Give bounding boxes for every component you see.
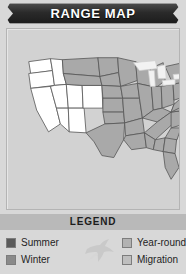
banner-title-container: RANGE MAP xyxy=(4,3,182,24)
legend-label-winter: Winter xyxy=(21,255,50,265)
state-louisiana xyxy=(124,133,147,150)
legend-column-right: Year-round Migration xyxy=(122,234,186,268)
state-iowa xyxy=(121,83,140,98)
header-banner: RANGE MAP xyxy=(0,0,186,26)
legend-column-left: Summer Winter xyxy=(6,234,59,268)
state-new-mexico xyxy=(68,108,86,133)
state-ohio xyxy=(161,84,174,108)
legend-swatch-summer xyxy=(6,238,16,248)
range-map-panel xyxy=(6,28,180,210)
state-oregon xyxy=(29,71,55,89)
lake-erie xyxy=(162,79,175,85)
legend-label-year-round: Year-round xyxy=(137,238,186,248)
legend-title: LEGEND xyxy=(70,217,116,227)
legend-label-migration: Migration xyxy=(137,255,178,265)
state-utah xyxy=(66,84,83,108)
lake-ontario xyxy=(173,74,179,80)
legend-swatch-winter xyxy=(6,255,16,265)
bird-silhouette-svg xyxy=(84,236,116,266)
state-south-carolina xyxy=(165,128,179,140)
legend-item-winter: Winter xyxy=(6,251,59,268)
legend-swatch-migration xyxy=(122,255,132,265)
state-colorado xyxy=(82,85,103,108)
state-texas xyxy=(86,123,125,158)
state-nebraska xyxy=(102,85,123,98)
state-north-carolina xyxy=(171,110,179,128)
state-minnesota xyxy=(118,58,138,87)
legend-header-bar: LEGEND xyxy=(0,214,186,230)
legend-label-summer: Summer xyxy=(21,238,59,248)
state-kansas xyxy=(103,98,124,112)
us-range-map xyxy=(7,29,179,209)
bird-silhouette-icon xyxy=(84,236,116,266)
legend-swatch-year-round xyxy=(122,238,132,248)
legend-item-migration: Migration xyxy=(122,251,186,268)
state-oklahoma xyxy=(103,112,125,124)
state-indiana xyxy=(151,86,162,110)
legend-item-summer: Summer xyxy=(6,234,59,251)
legend-body: Summer Winter Year-round Migration xyxy=(0,230,186,274)
lake-huron xyxy=(157,65,166,79)
page-title: RANGE MAP xyxy=(51,7,136,20)
state-florida xyxy=(163,152,179,180)
map-states-group xyxy=(29,58,179,180)
legend-item-year-round: Year-round xyxy=(122,234,186,251)
